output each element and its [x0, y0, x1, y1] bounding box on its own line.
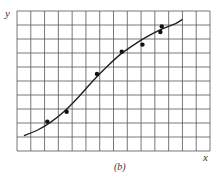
data-point: [45, 119, 49, 123]
figure-caption: (b): [114, 162, 126, 172]
data-point: [158, 30, 162, 34]
x-axis-label: x: [203, 152, 208, 163]
grid-lines: [17, 11, 210, 151]
data-point: [64, 110, 68, 114]
data-point: [95, 72, 99, 76]
data-point: [120, 49, 124, 53]
y-axis-label: y: [5, 8, 10, 19]
chart-plot-area: [0, 0, 219, 182]
data-point: [140, 42, 144, 46]
data-point: [160, 24, 164, 28]
fitted-curve: [24, 19, 183, 135]
